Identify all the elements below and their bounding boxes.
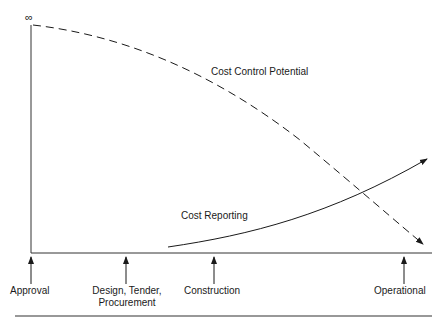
cost-reporting-label: Cost Reporting bbox=[181, 210, 248, 222]
milestone-label-design-line1: Design, Tender, bbox=[89, 285, 165, 297]
diagram-canvas bbox=[0, 0, 445, 321]
cost-control-label: Cost Control Potential bbox=[211, 66, 308, 78]
milestone-label-design-line2: Procurement bbox=[89, 297, 165, 309]
milestone-label-design: Design, Tender, Procurement bbox=[89, 285, 165, 309]
infinity-symbol: ∞ bbox=[25, 11, 33, 23]
milestone-label-operational: Operational bbox=[374, 285, 426, 297]
milestone-label-approval: Approval bbox=[10, 285, 49, 297]
cost-reporting-curve bbox=[168, 159, 427, 247]
milestone-label-construction: Construction bbox=[184, 285, 240, 297]
